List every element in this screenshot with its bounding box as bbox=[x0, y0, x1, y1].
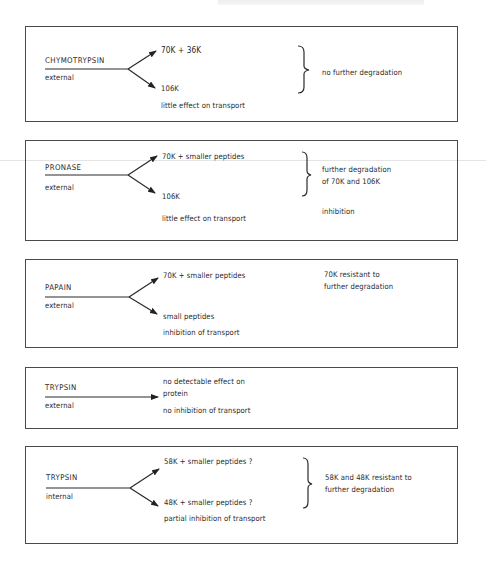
product-upper: 70K + 36K bbox=[161, 46, 201, 55]
location-label: internal bbox=[46, 492, 73, 501]
product-upper: 70K + smaller peptides bbox=[163, 271, 245, 280]
outcome-line-2: of 70K and 106K bbox=[322, 177, 380, 186]
product-upper: no detectable effect on bbox=[163, 377, 245, 386]
outcome-line-1: further degradation bbox=[322, 165, 391, 174]
outcome-line-2: further degradation bbox=[325, 485, 394, 494]
transport-effect: inhibition of transport bbox=[163, 328, 240, 337]
outcome-line-1: no further degradation bbox=[322, 68, 402, 77]
transport-effect: partial inhibition of transport bbox=[164, 514, 266, 523]
enzyme-label: PRONASE bbox=[45, 163, 81, 172]
transport-effect: no inhibition of transport bbox=[163, 406, 251, 415]
location-label: external bbox=[45, 401, 74, 410]
outcome-extra: inhibition bbox=[322, 207, 355, 216]
enzyme-label: PAPAIN bbox=[45, 283, 72, 292]
enzyme-label: TRYPSIN bbox=[45, 383, 77, 392]
transport-effect: little effect on transport bbox=[161, 101, 245, 110]
product-lower: small peptides bbox=[163, 312, 214, 321]
header-faded-text bbox=[218, 0, 424, 5]
product-lower: 106K bbox=[161, 84, 179, 93]
transport-effect: little effect on transport bbox=[162, 214, 246, 223]
outcome-line-2: further degradation bbox=[324, 282, 393, 291]
product-lower: 106K bbox=[162, 192, 180, 201]
product-lower: 48K + smaller peptides ? bbox=[164, 498, 252, 507]
enzyme-label: TRYPSIN bbox=[46, 473, 78, 482]
product-upper: 58K + smaller peptides ? bbox=[164, 457, 252, 466]
location-label: external bbox=[45, 73, 74, 82]
product-lower: protein bbox=[163, 389, 188, 398]
location-label: external bbox=[45, 183, 74, 192]
location-label: external bbox=[45, 301, 74, 310]
enzyme-label: CHYMOTRYPSIN bbox=[45, 56, 105, 65]
product-upper: 70K + smaller peptides bbox=[162, 152, 244, 161]
outcome-line-1: 70K resistant to bbox=[324, 270, 380, 279]
outcome-line-1: 58K and 48K resistant to bbox=[325, 473, 412, 482]
